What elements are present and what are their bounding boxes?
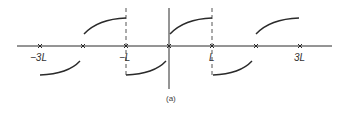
figure-caption: (a) (166, 94, 176, 103)
label-3L: 3L (294, 52, 305, 63)
label-L: L (209, 52, 215, 63)
label-minus-3L: −3L (30, 52, 47, 63)
label-minus-L: −L (119, 52, 130, 63)
